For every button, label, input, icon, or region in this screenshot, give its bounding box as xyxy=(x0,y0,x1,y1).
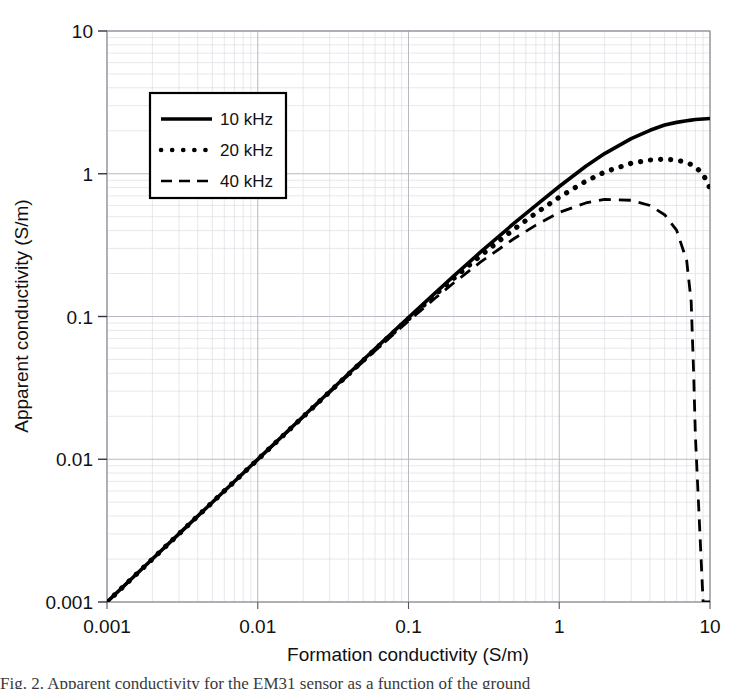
y-tick-label: 1 xyxy=(82,164,93,185)
x-axis-title: Formation conductivity (S/m) xyxy=(287,644,529,665)
figure-caption: Fig. 2. Apparent conductivity for the EM… xyxy=(0,674,738,689)
x-tick-label: 0.1 xyxy=(395,616,421,637)
y-axis-title: Apparent conductivity (S/m) xyxy=(11,199,32,432)
legend[interactable]: 10 kHz 20 kHz 40 kHz xyxy=(150,93,286,198)
chart-canvas: 0.0010.010.1110 0.0010.010.1110 Formatio… xyxy=(0,0,738,689)
figure-container: 0.0010.010.1110 0.0010.010.1110 Formatio… xyxy=(0,0,738,689)
legend-label-10-khz: 10 kHz xyxy=(220,110,273,129)
x-tick-label: 10 xyxy=(699,616,720,637)
legend-label-20-khz: 20 kHz xyxy=(220,141,273,160)
y-tick-label: 10 xyxy=(72,21,93,42)
y-tick-label: 0.001 xyxy=(45,592,93,613)
y-tick-label: 0.01 xyxy=(56,449,93,470)
chart-background xyxy=(0,0,738,689)
x-tick-label: 0.01 xyxy=(239,616,276,637)
y-tick-label: 0.1 xyxy=(67,307,93,328)
x-tick-label: 0.001 xyxy=(83,616,131,637)
legend-label-40-khz: 40 kHz xyxy=(220,172,273,191)
x-tick-label: 1 xyxy=(554,616,565,637)
